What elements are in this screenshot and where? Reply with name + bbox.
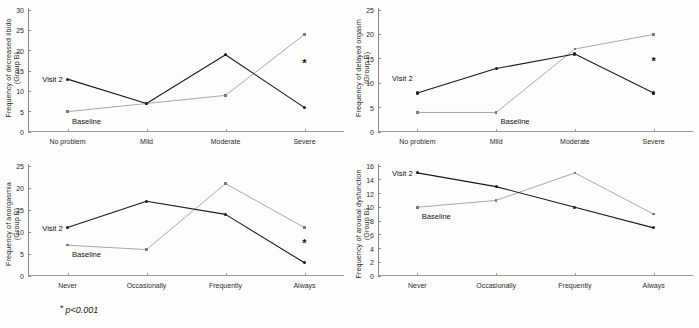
y-axis-tick-label: 15 — [366, 55, 378, 62]
x-axis-tick-label: No problem — [49, 138, 85, 145]
chart-panel-decreased-libido: Frequency of decreased libido(Group B)05… — [0, 2, 350, 162]
series-lines — [28, 10, 344, 132]
series-annotation-visit-2: Visit 2 — [392, 168, 413, 177]
y-axis-tick-label: 20 — [16, 47, 28, 54]
data-point-marker — [652, 213, 655, 216]
series-annotation-visit-2: Visit 2 — [42, 75, 63, 84]
chart-panel-arousal-dysfunction: Frequency of arousal dysfunction(Group B… — [350, 158, 699, 306]
x-axis-tick-label: Occasionally — [476, 282, 516, 289]
data-point-marker — [495, 111, 498, 114]
y-axis-tick-label: 2 — [370, 259, 378, 266]
x-axis-tick-label: Never — [58, 282, 77, 289]
data-point-marker — [416, 206, 419, 209]
y-axis-tick-label: 10 — [366, 204, 378, 211]
series-annotation-baseline: Baseline — [72, 117, 101, 126]
data-point-marker — [303, 33, 306, 36]
data-point-marker — [145, 200, 148, 203]
series-annotation-baseline: Baseline — [72, 250, 101, 259]
x-axis-tick-label: Always — [643, 282, 665, 289]
data-point-marker — [652, 91, 655, 94]
significance-asterisk: * — [302, 57, 306, 68]
y-axis-tick-label: 10 — [16, 88, 28, 95]
chart-panel-delayed-orgasm: Frequency of delayed orgasm(Group B)0510… — [350, 2, 699, 162]
chart-panel-anorgasmia: Frequency of anorgasmia(Group B)05101520… — [0, 158, 350, 306]
significance-footnote: *p<0.001 — [60, 303, 98, 315]
footnote-asterisk-icon: * — [60, 303, 64, 313]
x-axis-tick-label: Severe — [293, 138, 315, 145]
series-line-baseline — [417, 34, 653, 112]
y-axis-tick-label: 15 — [16, 68, 28, 75]
y-axis-tick-label: 5 — [20, 108, 28, 115]
x-axis-tick-label: Moderate — [560, 138, 590, 145]
series-line-visit-2 — [68, 201, 305, 263]
x-axis-tick-label: Moderate — [211, 138, 241, 145]
data-point-marker — [495, 185, 498, 188]
x-axis-tick-label: Occasionally — [127, 282, 167, 289]
data-point-marker — [145, 248, 148, 251]
y-axis-tick-label: 25 — [366, 7, 378, 14]
y-axis-tick-label: 10 — [16, 229, 28, 236]
x-axis-tick-label: Never — [408, 282, 427, 289]
y-axis-tick-label: 25 — [16, 163, 28, 170]
data-point-marker — [416, 111, 419, 114]
data-point-marker — [66, 78, 69, 81]
x-axis-tick-label: Frequently — [209, 282, 242, 289]
series-lines — [378, 166, 693, 276]
y-axis-tick-label: 0 — [370, 129, 378, 136]
data-point-marker — [652, 33, 655, 36]
series-line-baseline — [68, 184, 305, 250]
y-axis-tick-label: 25 — [16, 27, 28, 34]
y-axis-tick-label: 12 — [366, 190, 378, 197]
plot-area: 0246810121416NeverOccasionallyFrequently… — [378, 166, 693, 276]
footnote-text: p<0.001 — [66, 305, 99, 315]
data-point-marker — [574, 48, 577, 51]
significance-asterisk: * — [651, 56, 655, 67]
x-axis-tick-label: Frequently — [558, 282, 591, 289]
series-lines — [28, 166, 344, 276]
series-annotation-baseline: Baseline — [500, 117, 529, 126]
x-axis-tick-label: Mild — [490, 138, 503, 145]
y-axis-title: Frequency of anorgasmia(Group B) — [0, 158, 26, 290]
y-axis-tick-label: 6 — [370, 231, 378, 238]
data-point-marker — [224, 213, 227, 216]
y-axis-tick-label: 8 — [370, 218, 378, 225]
series-line-baseline — [68, 34, 305, 111]
data-point-marker — [224, 94, 227, 97]
y-axis-tick-label: 5 — [370, 104, 378, 111]
y-axis-tick-label: 20 — [366, 31, 378, 38]
data-point-marker — [66, 244, 69, 247]
series-annotation-visit-2: Visit 2 — [42, 223, 63, 232]
y-axis-tick-label: 4 — [370, 245, 378, 252]
data-point-marker — [224, 182, 227, 185]
plot-area: 0510152025NeverOccasionallyFrequentlyAlw… — [28, 166, 344, 276]
series-line-visit-2 — [417, 54, 653, 93]
x-axis-tick-label: Mild — [140, 138, 153, 145]
y-axis-tick-label: 16 — [366, 163, 378, 170]
x-axis-tick-label: No problem — [399, 138, 435, 145]
plot-area: 051015202530No problemMildModerateSevere… — [28, 10, 344, 132]
data-point-marker — [416, 91, 419, 94]
y-axis-tick-label: 14 — [366, 176, 378, 183]
x-axis-tick-label: Severe — [643, 138, 665, 145]
y-axis-tick-label: 5 — [20, 251, 28, 258]
y-axis-tick-label: 0 — [20, 273, 28, 280]
data-point-marker — [495, 67, 498, 70]
data-point-marker — [574, 172, 577, 175]
series-line-visit-2 — [417, 173, 653, 228]
y-axis-tick-label: 15 — [16, 207, 28, 214]
significance-asterisk: * — [302, 238, 306, 249]
plot-area: 0510152025No problemMildModerateSevereVi… — [378, 10, 693, 132]
x-axis-tick-label: Always — [293, 282, 315, 289]
y-axis-tick-label: 10 — [366, 80, 378, 87]
y-axis-tick-label: 0 — [370, 273, 378, 280]
y-axis-title: Frequency of delayed orgasm(Group B) — [350, 2, 376, 134]
data-point-marker — [495, 199, 498, 202]
data-point-marker — [66, 110, 69, 113]
y-axis-tick-label: 30 — [16, 7, 28, 14]
series-annotation-baseline: Baseline — [422, 212, 451, 221]
y-axis-tick-label: 0 — [20, 129, 28, 136]
series-annotation-visit-2: Visit 2 — [392, 74, 413, 83]
series-lines — [378, 10, 693, 132]
data-point-marker — [303, 226, 306, 229]
figure-container: Frequency of decreased libido(Group B)05… — [0, 0, 699, 328]
